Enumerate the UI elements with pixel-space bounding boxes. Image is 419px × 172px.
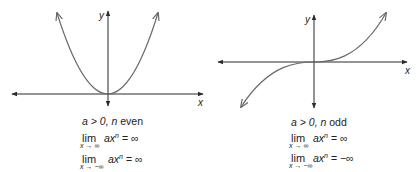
y-axis-label: y: [99, 11, 104, 21]
expr-base: ax: [108, 153, 119, 165]
limit-result: = ∞: [122, 132, 139, 144]
expression: axn = ∞: [108, 153, 142, 165]
expr-exponent: n: [119, 153, 123, 160]
lim-subscript: x → ∞: [80, 142, 99, 149]
limit-row: limx → −∞ axn = −∞: [291, 152, 354, 170]
expression: axn = −∞: [313, 152, 354, 164]
even-caption: a > 0, n even limx → ∞ axn = ∞ limx → −∞…: [82, 116, 143, 171]
expr-base: ax: [313, 152, 324, 164]
x-axis-label: x: [198, 98, 203, 108]
expr-exponent: n: [324, 132, 328, 139]
lim-subscript: x → −∞: [80, 163, 103, 170]
limit-row: limx → ∞ axn = ∞: [82, 132, 143, 150]
a-condition: a > 0,: [82, 115, 109, 127]
caption-title: a > 0, n even: [82, 116, 143, 127]
limit-row: limx → −∞ axn = ∞: [82, 153, 143, 171]
limit-result: = −∞: [331, 152, 354, 164]
expr-base: ax: [313, 132, 324, 144]
limit-result: = ∞: [331, 132, 348, 144]
n-variable: n: [112, 115, 118, 127]
parity-label: odd: [329, 116, 347, 128]
parity-label: even: [120, 115, 143, 127]
n-variable: n: [321, 116, 327, 128]
lim-subscript: x → ∞: [289, 142, 308, 149]
a-condition: a > 0,: [291, 116, 318, 128]
limit-result: = ∞: [126, 153, 143, 165]
expression: axn = ∞: [104, 132, 138, 144]
even-power-graph: [12, 11, 203, 106]
expression: axn = ∞: [313, 132, 347, 144]
lim-subscript: x → −∞: [289, 162, 312, 169]
y-axis-label: y: [305, 15, 310, 25]
limit-row: limx → ∞ axn = ∞: [291, 132, 354, 150]
expr-exponent: n: [324, 152, 328, 159]
expr-base: ax: [104, 132, 115, 144]
graphs-canvas: [0, 0, 419, 172]
x-axis-label: x: [405, 66, 410, 76]
odd-power-graph: [218, 13, 407, 108]
odd-caption: a > 0, n odd limx → ∞ axn = ∞ limx → −∞ …: [291, 117, 354, 170]
expr-exponent: n: [115, 132, 119, 139]
caption-title: a > 0, n odd: [291, 117, 354, 128]
